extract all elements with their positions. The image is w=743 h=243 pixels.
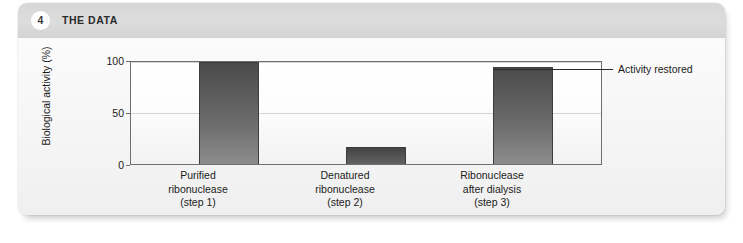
x-category-label-1: Purified ribonuclease (step 1)	[123, 169, 273, 210]
y-tick-label-100: 100	[96, 55, 124, 67]
x-category-line: (step 1)	[123, 196, 273, 210]
x-category-line: Ribonuclease	[417, 169, 567, 183]
x-category-line: after dialysis	[417, 183, 567, 197]
y-tick-label-0: 0	[96, 159, 124, 171]
x-category-line: ribonuclease	[270, 183, 420, 197]
x-category-line: Purified	[123, 169, 273, 183]
plot-area	[130, 61, 602, 165]
y-axis-label: Biological activity (%)	[40, 36, 52, 156]
x-category-line: ribonuclease	[123, 183, 273, 197]
y-tick-mark-0	[126, 165, 130, 166]
panel-header: 4 THE DATA	[18, 3, 725, 38]
x-category-label-2: Denatured ribonuclease (step 2)	[270, 169, 420, 210]
y-tick-label-50: 50	[96, 107, 124, 119]
bar-ribonuclease-after-dialysis	[493, 67, 553, 164]
figure-body: Biological activity (%) 100 50 0 Purifie…	[18, 38, 725, 215]
section-number-badge: 4	[31, 11, 50, 30]
bar-fill	[346, 147, 406, 164]
annotation-leader-line	[493, 69, 613, 70]
annotation-label: Activity restored	[618, 63, 693, 75]
bar-fill	[199, 62, 259, 164]
bar-fill	[493, 67, 553, 164]
x-category-label-3: Ribonuclease after dialysis (step 3)	[417, 169, 567, 210]
x-category-line: (step 3)	[417, 196, 567, 210]
x-category-line: (step 2)	[270, 196, 420, 210]
x-category-line: Denatured	[270, 169, 420, 183]
bar-purified-ribonuclease	[199, 62, 259, 164]
bar-denatured-ribonuclease	[346, 147, 406, 164]
page-title: THE DATA	[62, 14, 118, 26]
figure-panel: 4 THE DATA Biological activity (%) 100 5…	[18, 3, 725, 215]
